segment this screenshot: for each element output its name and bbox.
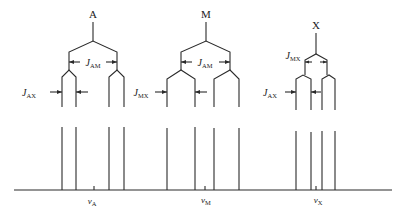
arrowhead-icon bbox=[291, 90, 296, 94]
multiplet-m: M JAM JMX νM bbox=[134, 8, 239, 206]
arrowhead-icon bbox=[57, 90, 62, 94]
nucleus-label-m: M bbox=[201, 8, 211, 20]
arrowhead-icon bbox=[305, 61, 309, 64]
arrowhead-icon bbox=[76, 90, 81, 94]
coupling-label-jam-a: JAM bbox=[86, 57, 101, 69]
arrowhead-icon bbox=[225, 60, 230, 64]
arrowhead-icon bbox=[162, 90, 167, 94]
tree-split-jax-left-a bbox=[62, 70, 76, 107]
nucleus-label-a: A bbox=[89, 8, 97, 20]
coupling-label-jmx-m: JMX bbox=[134, 87, 149, 99]
multiplet-a: A JAM JAX νA bbox=[22, 8, 124, 207]
chemical-shift-label-x: νX bbox=[314, 195, 323, 206]
tree-split-jax-right-a bbox=[109, 70, 124, 107]
chemical-shift-label-a: νA bbox=[88, 196, 97, 207]
arrowhead-icon bbox=[323, 61, 327, 64]
tree-split-jax-left-x bbox=[296, 75, 311, 110]
arrowhead-icon bbox=[195, 90, 200, 94]
coupling-label-jmx-x: JMX bbox=[286, 50, 301, 62]
multiplet-x: X JMX JAX νX bbox=[263, 19, 335, 206]
coupling-label-jax-x: JAX bbox=[263, 87, 277, 99]
arrowhead-icon bbox=[181, 60, 186, 64]
arrowhead-icon bbox=[112, 60, 117, 64]
nmr-splitting-diagram: A JAM JAX νA M bbox=[0, 0, 405, 215]
chemical-shift-label-m: νM bbox=[201, 195, 211, 206]
coupling-label-jax-a: JAX bbox=[22, 87, 36, 99]
nucleus-label-x: X bbox=[312, 19, 320, 31]
coupling-label-jam-m: JAM bbox=[198, 57, 213, 69]
tree-split-jam-a bbox=[69, 41, 117, 55]
tree-split-jmx-left-m bbox=[167, 70, 195, 107]
tree-split-jax-right-x bbox=[322, 75, 335, 110]
arrowhead-icon bbox=[69, 60, 74, 64]
tree-split-jmx-right-m bbox=[214, 70, 239, 107]
tree-split-jam-m bbox=[181, 41, 230, 55]
arrowhead-icon bbox=[311, 90, 316, 94]
